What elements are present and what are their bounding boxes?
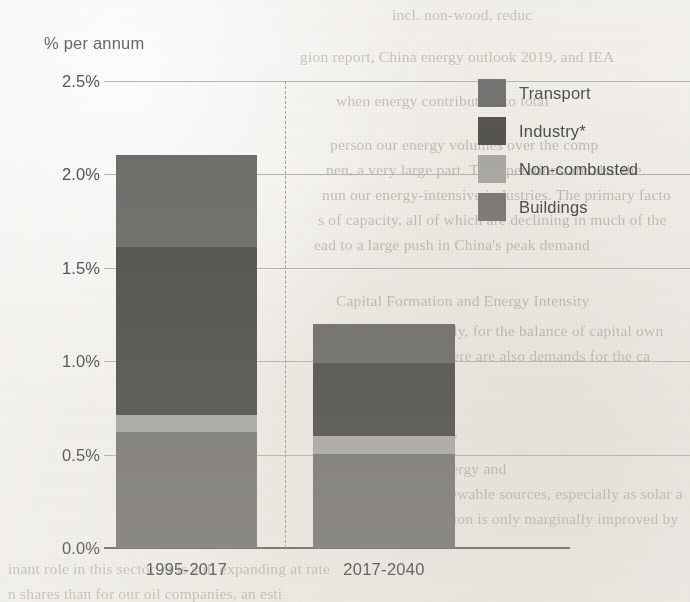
legend-item-buildings: Buildings: [478, 188, 638, 226]
legend-label: Transport: [519, 84, 591, 103]
legend-label: Industry*: [519, 122, 586, 141]
x-axis-label: 2017-2040: [293, 560, 475, 579]
y-axis-tick-label: 1.5%: [26, 258, 100, 277]
bar-2017-2040: [313, 324, 455, 548]
legend-swatch-icon: [478, 79, 506, 107]
bar-segment-industry: [116, 247, 257, 415]
bar-segment-transport: [313, 324, 455, 363]
y-axis-tick-label: 1.0%: [26, 352, 100, 371]
bar-segment-industry: [313, 363, 455, 436]
legend-label: Buildings: [519, 198, 588, 217]
bar-1995-2017: [116, 155, 257, 548]
y-axis-tick-label: 2.5%: [26, 71, 100, 90]
y-axis-title: % per annum: [44, 34, 144, 53]
bar-segment-non-combusted: [313, 436, 455, 455]
bar-segment-buildings: [116, 432, 257, 548]
legend-item-non-combusted: Non-combusted: [478, 150, 638, 188]
y-axis-tick-label: 0.5%: [26, 445, 100, 464]
bar-segment-transport: [116, 155, 257, 247]
legend-item-transport: Transport: [478, 74, 638, 112]
y-axis-tick-label: 0.0%: [26, 539, 100, 558]
legend-swatch-icon: [478, 193, 506, 221]
legend-label: Non-combusted: [519, 160, 638, 179]
legend-swatch-icon: [478, 155, 506, 183]
category-divider: [285, 81, 286, 549]
chart-legend: TransportIndustry*Non-combustedBuildings: [478, 74, 638, 226]
bar-segment-buildings: [313, 454, 455, 548]
legend-swatch-icon: [478, 117, 506, 145]
x-axis-label: 1995-2017: [96, 560, 277, 579]
bar-segment-non-combusted: [116, 415, 257, 432]
y-axis-tick-label: 2.0%: [26, 165, 100, 184]
legend-item-industry: Industry*: [478, 112, 638, 150]
